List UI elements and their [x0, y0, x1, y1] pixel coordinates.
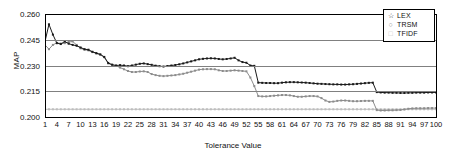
x-tick-label: 88 [384, 120, 392, 129]
y-tick-label: 0.200 [12, 113, 40, 122]
x-tick-label: 19 [112, 120, 120, 129]
y-tick-label: 0.260 [12, 10, 40, 19]
legend-item-lex: ☆LEX [386, 12, 432, 20]
x-tick-label: 94 [408, 120, 416, 129]
x-tick-label: 79 [349, 120, 357, 129]
plot-border [45, 14, 437, 118]
x-tick-label: 58 [266, 120, 274, 129]
x-tick-label: 85 [373, 120, 381, 129]
legend-item-tfidf: □TFIDF [386, 30, 432, 38]
legend-item-trsm: ○TRSM [386, 21, 432, 29]
x-tick-label: 7 [67, 120, 71, 129]
x-tick-label: 31 [159, 120, 167, 129]
square-marker-icon: □ [386, 30, 395, 38]
x-tick-label: 61 [278, 120, 286, 129]
x-tick-label: 43 [207, 120, 215, 129]
y-axis-tick-labels: 0.2600.2450.2300.2150.200 [10, 0, 40, 164]
x-axis-tick-labels: 1471013161922252831343740434649525558616… [45, 120, 437, 132]
x-tick-label: 40 [195, 120, 203, 129]
x-tick-label: 16 [100, 120, 108, 129]
chart-legend: ☆LEX○TRSM□TFIDF [383, 9, 435, 42]
x-tick-label: 46 [219, 120, 227, 129]
x-tick-label: 10 [76, 120, 84, 129]
x-tick-label: 4 [55, 120, 59, 129]
x-tick-label: 64 [290, 120, 298, 129]
x-tick-label: 1 [43, 120, 47, 129]
plot-area [45, 14, 437, 118]
x-tick-label: 82 [361, 120, 369, 129]
y-tick-label: 0.215 [12, 87, 40, 96]
legend-label: TRSM [397, 21, 418, 29]
x-tick-label: 49 [230, 120, 238, 129]
x-tick-label: 52 [242, 120, 250, 129]
x-tick-label: 55 [254, 120, 262, 129]
circle-marker-icon: ○ [386, 21, 395, 29]
legend-label: TFIDF [397, 30, 418, 38]
map-vs-tolerance-line-chart: MAP 0.2600.2450.2300.2150.200 1471013161… [0, 0, 466, 164]
x-tick-label: 70 [313, 120, 321, 129]
legend-label: LEX [397, 12, 411, 20]
x-tick-label: 100 [430, 120, 443, 129]
x-axis-title: Tolerance Value [0, 141, 466, 150]
x-tick-label: 91 [396, 120, 404, 129]
y-tick-label: 0.245 [12, 35, 40, 44]
x-tick-label: 37 [183, 120, 191, 129]
x-tick-label: 34 [171, 120, 179, 129]
star-marker-icon: ☆ [386, 12, 395, 20]
x-tick-label: 22 [124, 120, 132, 129]
x-tick-label: 73 [325, 120, 333, 129]
x-tick-label: 13 [88, 120, 96, 129]
x-tick-label: 97 [420, 120, 428, 129]
x-tick-label: 67 [301, 120, 309, 129]
x-tick-label: 28 [147, 120, 155, 129]
x-tick-label: 76 [337, 120, 345, 129]
y-tick-label: 0.230 [12, 61, 40, 70]
x-tick-label: 25 [136, 120, 144, 129]
